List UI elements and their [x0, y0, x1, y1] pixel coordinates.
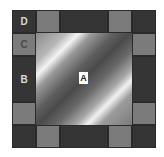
- cell-bottom-dark-center: [60, 125, 108, 148]
- label-d: D: [20, 16, 27, 27]
- cell-right-gray-bottom: [132, 102, 156, 125]
- label-a: A: [79, 72, 88, 84]
- cell-top-dark-center: [60, 10, 108, 33]
- cell-top-right-corner: [132, 10, 156, 33]
- cell-right-dark-center: [132, 56, 156, 102]
- cell-top-gray-left: [36, 10, 60, 33]
- label-c: C: [20, 39, 27, 50]
- cell-bottom-left-corner: [12, 125, 36, 148]
- cell-d: D: [12, 10, 36, 33]
- diagram-frame: D C B A: [12, 10, 156, 148]
- cell-c: C: [12, 33, 36, 56]
- cell-top-gray-right: [108, 10, 132, 33]
- cell-bottom-gray-left: [36, 125, 60, 148]
- cell-bottom-gray-right: [108, 125, 132, 148]
- cell-bottom-right-corner: [132, 125, 156, 148]
- cell-b: B: [12, 56, 36, 102]
- cell-left-gray-bottom: [12, 102, 36, 125]
- cell-right-gray-top: [132, 33, 156, 56]
- label-b: B: [20, 74, 27, 85]
